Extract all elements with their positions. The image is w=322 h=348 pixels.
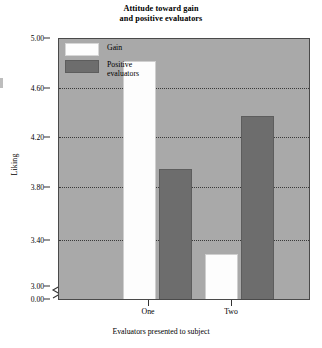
y-axis: 5.00 4.60 4.20 3.80 3.40 3.00 0.00 Likin…	[0, 0, 58, 348]
gridline-4-60	[59, 88, 309, 89]
y-tick-label-5-00: 5.00	[31, 34, 44, 43]
legend-item-gain: Gain	[65, 43, 185, 56]
x-tick-label-one: One	[142, 307, 155, 316]
bar-chart-figure: Attitude toward gain and positive evalua…	[0, 0, 322, 348]
y-tick-mark	[44, 38, 50, 39]
y-tick-label-3-00: 3.00	[31, 282, 44, 291]
legend: Gain Positive evaluators	[65, 43, 185, 82]
legend-swatch-positive-evaluators	[65, 60, 99, 73]
bar-gain-two[interactable]	[205, 254, 238, 299]
y-tick-mark	[44, 187, 50, 188]
legend-label-gain: Gain	[107, 43, 122, 53]
y-tick-mark	[44, 88, 50, 89]
y-tick-label-4-60: 4.60	[31, 84, 44, 93]
y-axis-label: Liking	[10, 135, 19, 195]
bar-positive-evaluators-two[interactable]	[241, 116, 274, 299]
legend-label-positive-evaluators: Positive evaluators	[107, 60, 139, 78]
x-tick-mark	[148, 300, 149, 306]
bar-gain-one[interactable]	[123, 61, 156, 299]
y-tick-mark	[44, 299, 50, 300]
y-tick-mark	[44, 137, 50, 138]
x-tick-mark	[231, 300, 232, 306]
y-tick-label-4-20: 4.20	[31, 133, 44, 142]
legend-item-positive-evaluators: Positive evaluators	[65, 60, 185, 78]
plot-area: Gain Positive evaluators	[58, 38, 310, 300]
x-tick-label-two: Two	[224, 307, 238, 316]
y-tick-label-3-40: 3.40	[31, 236, 44, 245]
x-axis-label: Evaluators presented to subject	[0, 327, 322, 336]
legend-swatch-gain	[65, 43, 99, 56]
y-tick-mark	[44, 240, 50, 241]
y-tick-label-0-00: 0.00	[31, 295, 44, 304]
y-tick-label-3-80: 3.80	[31, 183, 44, 192]
bar-positive-evaluators-one[interactable]	[159, 169, 192, 299]
y-tick-mark	[44, 286, 50, 287]
